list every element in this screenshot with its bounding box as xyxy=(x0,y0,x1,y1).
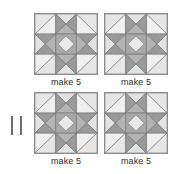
quilt-block-svg xyxy=(35,14,97,74)
quilt-block-top-right xyxy=(104,13,168,75)
block-group-top-left: make 5 xyxy=(34,13,98,88)
block-caption: make 5 xyxy=(34,156,98,167)
quilt-block-bottom-left xyxy=(34,92,98,154)
diagram-canvas: make 5 xyxy=(0,0,179,174)
block-group-bottom-right: make 5 xyxy=(104,92,168,167)
block-caption: make 5 xyxy=(104,156,168,167)
quilt-block-svg xyxy=(105,14,167,74)
block-group-top-right: make 5 xyxy=(104,13,168,88)
block-group-bottom-left: make 5 xyxy=(34,92,98,167)
double-tick-mark xyxy=(11,116,25,135)
quilt-block-svg xyxy=(35,93,97,153)
quilt-block-bottom-right xyxy=(104,92,168,154)
tick-bar-right xyxy=(20,116,22,135)
block-caption: make 5 xyxy=(104,77,168,88)
quilt-block-svg xyxy=(105,93,167,153)
tick-bar-left xyxy=(11,116,13,135)
block-caption: make 5 xyxy=(34,77,98,88)
quilt-block-top-left xyxy=(34,13,98,75)
